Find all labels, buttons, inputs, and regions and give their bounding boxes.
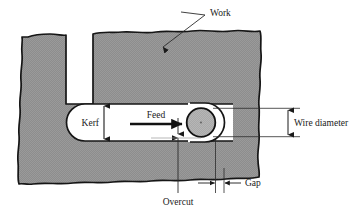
work-leader-line — [181, 12, 205, 15]
wire-center-dot — [200, 121, 202, 123]
overcut-label: Overcut — [163, 197, 194, 207]
wire-diameter-label: Wire diameter — [294, 118, 349, 128]
workpiece-body — [18, 30, 261, 184]
wire-edm-diagram: Work Kerf Feed Wire diameter Gap — [0, 0, 362, 217]
work-label: Work — [210, 8, 231, 18]
kerf-label: Kerf — [82, 118, 100, 128]
feed-label: Feed — [147, 110, 166, 120]
diagram-canvas: Work Kerf Feed Wire diameter Gap — [0, 0, 362, 217]
wire-electrode — [187, 108, 216, 137]
gap-label: Gap — [245, 178, 261, 188]
